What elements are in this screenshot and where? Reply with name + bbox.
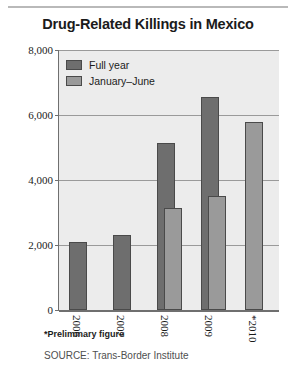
bar-group — [245, 50, 270, 310]
bar-january-june — [245, 122, 263, 311]
legend-swatch — [66, 76, 82, 86]
chart-figure: Drug-Related Killings in Mexico 02,0004,… — [0, 0, 296, 372]
x-tick-label: *2010 — [247, 315, 259, 343]
legend-label: January–June — [89, 75, 155, 87]
y-tick-label: 0 — [48, 304, 54, 316]
footnote: *Preliminary figure — [44, 329, 124, 339]
y-tick-label: 2,000 — [28, 239, 53, 251]
y-tick-mark — [55, 245, 59, 246]
bar-full-year — [69, 242, 87, 310]
bar-january-june — [164, 208, 182, 310]
chart-title: Drug-Related Killings in Mexico — [0, 16, 296, 32]
bar-january-june — [208, 196, 226, 310]
y-tick-label: 6,000 — [28, 109, 53, 121]
bar-group — [201, 50, 226, 310]
x-tick-label: 2009 — [203, 315, 215, 337]
y-tick-label: 4,000 — [28, 174, 53, 186]
x-axis-baseline — [59, 310, 279, 312]
y-tick-label: 8,000 — [28, 44, 53, 56]
legend-label: Full year — [89, 59, 129, 71]
top-divider — [8, 6, 288, 8]
y-tick-mark — [55, 115, 59, 116]
bar-full-year — [113, 235, 131, 310]
legend-item: Full year — [66, 58, 155, 71]
x-tick-label: 2008 — [159, 315, 171, 337]
legend-item: January–June — [66, 74, 155, 87]
source-line: SOURCE: Trans-Border Institute — [44, 350, 189, 361]
bar-group — [157, 50, 182, 310]
chart-legend: Full yearJanuary–June — [66, 58, 155, 90]
legend-swatch — [66, 60, 82, 70]
y-tick-mark — [55, 180, 59, 181]
y-tick-mark — [55, 50, 59, 51]
